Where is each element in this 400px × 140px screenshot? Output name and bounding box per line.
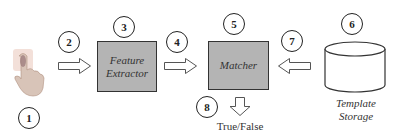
step-5-marker: 5	[223, 13, 245, 35]
step-1-marker: 1	[18, 107, 40, 129]
database-cylinder-icon	[324, 41, 386, 93]
step-2-marker: 2	[58, 31, 80, 53]
finger-touch-icon	[10, 47, 46, 97]
output-label: True/False	[208, 120, 272, 133]
step-7-marker: 7	[281, 30, 303, 52]
arrow-right-icon	[164, 58, 198, 74]
arrow-down-icon	[229, 97, 251, 117]
step-4-marker: 4	[166, 31, 188, 53]
feature-extractor-box: FeatureExtractor	[97, 41, 157, 92]
arrow-right-icon	[58, 58, 92, 74]
step-6-marker: 6	[341, 13, 363, 35]
step-8-marker: 8	[196, 96, 218, 118]
step-3-marker: 3	[113, 16, 135, 38]
template-storage-label: TemplateStorage	[325, 97, 387, 123]
matcher-box: Matcher	[208, 41, 269, 90]
arrow-left-icon	[277, 58, 311, 74]
